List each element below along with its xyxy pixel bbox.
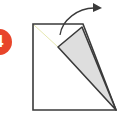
fold-diagram (0, 0, 118, 114)
arrowhead-icon (93, 3, 102, 12)
